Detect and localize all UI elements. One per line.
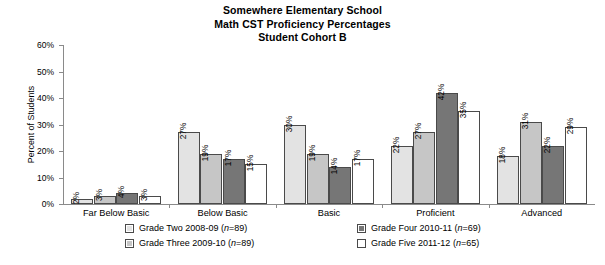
bar-group: 2%3%4%3%Far Below Basic (63, 45, 169, 204)
legend-label: Grade Three 2009-10 (n=89) (139, 238, 254, 248)
x-axis-separator-tick (382, 204, 383, 208)
chart-legend: Grade Two 2008-09 (n=89)Grade Three 2009… (125, 223, 525, 257)
bar[interactable]: 14% (329, 167, 351, 204)
y-axis-tick-label: 40% (37, 93, 54, 103)
bar-value-label: 42% (437, 84, 447, 100)
bar[interactable]: 17% (352, 159, 374, 204)
x-axis-category-label: Below Basic (198, 208, 248, 218)
bar[interactable]: 18% (497, 156, 519, 204)
bar[interactable]: 19% (307, 154, 329, 204)
legend-swatch (357, 239, 366, 248)
x-axis-category-label: Far Below Basic (83, 208, 149, 218)
bar-value-label: 18% (498, 147, 508, 163)
y-axis-tick-label: 20% (37, 146, 54, 156)
legend-item[interactable]: Grade Four 2010-11 (n=69) (357, 223, 481, 233)
bar[interactable]: 27% (413, 132, 435, 204)
x-axis-category-label: Basic (318, 208, 340, 218)
bar-value-label: 4% (117, 186, 127, 198)
bar[interactable]: 42% (436, 93, 458, 204)
legend-item[interactable]: Grade Five 2011-12 (n=65) (357, 238, 479, 248)
bar[interactable]: 17% (223, 159, 245, 204)
legend-swatch (125, 239, 134, 248)
bar-group: 22%27%42%35%Proficient (382, 45, 488, 204)
bar[interactable]: 15% (245, 164, 267, 204)
bar-group: 27%19%17%15%Below Basic (169, 45, 275, 204)
chart-title: Somewhere Elementary School Math CST Pro… (0, 4, 605, 45)
bar[interactable]: 22% (542, 146, 564, 204)
chart-title-line-1: Somewhere Elementary School (0, 4, 605, 18)
bar[interactable]: 19% (200, 154, 222, 204)
y-axis-tick-label: 50% (37, 67, 54, 77)
bar-value-label: 14% (330, 158, 340, 174)
legend-label: Grade Four 2010-11 (n=69) (371, 223, 481, 233)
bar-value-label: 27% (414, 123, 424, 139)
y-axis-tick-label: 30% (37, 120, 54, 130)
bar-value-label: 35% (459, 102, 469, 118)
y-axis-tick-label: 10% (37, 173, 54, 183)
bar-value-label: 3% (95, 189, 105, 201)
bar-group: 30%19%14%17%Basic (276, 45, 382, 204)
bar-value-label: 19% (201, 144, 211, 160)
x-axis-category-label: Proficient (416, 208, 454, 218)
bar-value-label: 2% (72, 192, 82, 204)
x-axis-separator-tick (489, 204, 490, 208)
bar-value-label: 17% (353, 150, 363, 166)
x-axis-separator-tick (169, 204, 170, 208)
bar-value-label: 19% (308, 144, 318, 160)
legend-item[interactable]: Grade Three 2009-10 (n=89) (125, 238, 254, 248)
bar[interactable]: 31% (520, 122, 542, 204)
bar-value-label: 3% (140, 189, 150, 201)
legend-swatch (125, 224, 134, 233)
x-axis-separator-tick (276, 204, 277, 208)
legend-label: Grade Two 2008-09 (n=89) (139, 223, 247, 233)
bar[interactable]: 3% (139, 196, 161, 204)
bar-value-label: 29% (566, 118, 576, 134)
y-axis-tick-label: 0% (42, 199, 54, 209)
legend-swatch (357, 224, 366, 233)
y-axis-tick-label: 60% (37, 40, 54, 50)
bar-value-label: 27% (179, 123, 189, 139)
y-axis-tick: 0% (59, 204, 63, 205)
bar[interactable]: 27% (178, 132, 200, 204)
y-axis-title: Percent of Students (24, 45, 38, 204)
chart-title-line-2: Math CST Proficiency Percentages (0, 18, 605, 32)
bar[interactable]: 35% (458, 111, 480, 204)
bar-group: 18%31%22%29%Advanced (489, 45, 595, 204)
bar-value-label: 17% (224, 150, 234, 166)
bar[interactable]: 30% (284, 125, 306, 205)
chart-title-line-3: Student Cohort B (0, 31, 605, 45)
bar-value-label: 22% (392, 137, 402, 153)
legend-label: Grade Five 2011-12 (n=65) (371, 238, 479, 248)
plot-area: 0%10%20%30%40%50%60% 2%3%4%3%Far Below B… (63, 45, 595, 204)
bar[interactable]: 4% (116, 193, 138, 204)
bar[interactable]: 29% (565, 127, 587, 204)
bar[interactable]: 22% (391, 146, 413, 204)
legend-item[interactable]: Grade Two 2008-09 (n=89) (125, 223, 247, 233)
bar-value-label: 22% (543, 137, 553, 153)
bar[interactable]: 2% (71, 199, 93, 204)
x-axis-category-label: Advanced (521, 208, 562, 218)
bar-value-label: 15% (246, 155, 256, 171)
bar[interactable]: 3% (94, 196, 116, 204)
x-axis-line (63, 204, 595, 205)
bar-value-label: 30% (285, 115, 295, 131)
bar-value-label: 31% (521, 113, 531, 129)
